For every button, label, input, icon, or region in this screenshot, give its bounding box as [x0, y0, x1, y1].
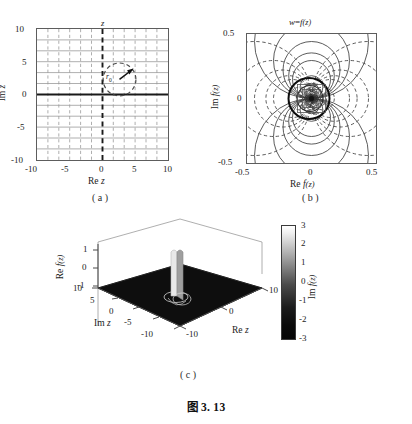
panel-a-ytick-4: -10: [11, 155, 23, 165]
colorbar-label-fn: f: [307, 284, 317, 287]
panel-a-xaxis-var: z: [101, 176, 105, 186]
figure-caption: 图 3. 13: [0, 398, 412, 414]
panel-b-xaxis-prefix: Re: [290, 179, 301, 189]
panel-b-yaxis-label: Im f(z): [210, 85, 220, 110]
panel-a-radius-annotation: r0: [106, 72, 112, 83]
panel-a-xtick-3: 5: [132, 164, 137, 174]
colorbar-tick-2: 1: [301, 257, 306, 267]
panel-a-ytick-2: 0: [22, 89, 27, 99]
panel-b-ytick-2: -0.5: [218, 157, 232, 167]
radius-subscript: 0: [109, 77, 112, 83]
colorbar-label-prefix: Im: [307, 289, 317, 300]
panel-c-imz-tick-3: -5: [124, 317, 132, 327]
colorbar-tick-4: -1: [299, 295, 307, 305]
panel-c-sublabel: ( c ): [180, 369, 196, 380]
panel-c-imz-tick-0: 10: [73, 283, 82, 293]
panel-a-ytick-3: -5: [17, 122, 25, 132]
panel-c-zaxis-arg: (z): [55, 255, 65, 264]
panel-b-ytick-1: 0: [237, 93, 242, 103]
panel-a-xaxis-prefix: Re: [88, 176, 99, 186]
panel-b-xaxis-arg: (z): [306, 179, 315, 189]
panel-c-rez-tick-0: -10: [186, 329, 198, 339]
panel-c-ztick-0: 1: [83, 244, 88, 254]
panel-c-plot-area: [58, 214, 298, 364]
panel-c-rez-tick-2: 10: [269, 285, 278, 295]
panel-c-rez-tick-1: 0: [229, 306, 234, 316]
panel-b-xtick-1: 0: [308, 167, 313, 177]
panel-b-yaxis-prefix: Im: [210, 99, 220, 110]
colorbar-tick-1: 2: [301, 238, 306, 248]
panel-b-title-arg: (z): [303, 18, 311, 27]
panel-c: 1 0 -1 Re f(z) 10 5 0 -5 -10 Im z -10 0 …: [0, 206, 412, 396]
panel-c-zaxis-prefix: Re: [55, 269, 65, 280]
colorbar-tick-6: -3: [299, 333, 307, 343]
panel-c-rez-axis-label: Re z: [232, 325, 249, 335]
colorbar-label-arg: (z): [307, 275, 317, 284]
panel-b-sublabel: ( b ): [302, 192, 319, 203]
panel-b-xaxis-label: Re f(z): [290, 179, 315, 189]
z-axis-ticks: [93, 250, 98, 286]
origin-blob: [309, 96, 314, 101]
panel-b-yaxis-arg: (z): [210, 85, 220, 94]
colorbar: [281, 225, 296, 340]
panel-b-xtick-2: 0.5: [366, 167, 377, 177]
panel-c-imz-axis-label: Im z: [94, 318, 111, 328]
panel-a-xtick-0: -10: [25, 164, 37, 174]
panel-a-yaxis-label: Im z: [0, 85, 7, 102]
panel-c-rez-var: z: [245, 325, 249, 335]
panel-c-zaxis-fn: f: [55, 264, 65, 267]
panel-c-zaxis-label: Re f(z): [55, 255, 65, 280]
panel-a-xaxis-label: Re z: [88, 176, 105, 186]
panel-a-ytick-0: 10: [15, 24, 24, 34]
panel-b-yaxis-fn: f: [210, 94, 220, 97]
panel-a-ytick-1: 5: [22, 57, 27, 67]
panel-a-xtick-2: 0: [99, 164, 104, 174]
panel-c-imz-var: z: [107, 318, 111, 328]
colorbar-label: Im f(z): [307, 275, 317, 300]
colorbar-tick-5: -2: [299, 314, 307, 324]
panel-c-imz-tick-2: 0: [109, 306, 114, 316]
panel-b-ytick-0: 0.5: [223, 28, 234, 38]
panel-c-imz-tick-1: 5: [90, 295, 95, 305]
panel-c-imz-tick-4: -10: [141, 329, 153, 339]
panel-a-yaxis-var: z: [0, 85, 7, 89]
panel-b: w=f(z): [206, 0, 412, 212]
panel-a-title: z: [101, 18, 104, 28]
panel-a-xtick-1: -5: [61, 164, 69, 174]
panel-a-yaxis-prefix: Im: [0, 91, 7, 102]
panel-a: z: [0, 0, 206, 212]
panel-a-sublabel: ( a ): [92, 192, 108, 203]
panel-c-imz-prefix: Im: [94, 318, 105, 328]
panel-b-xtick-0: -0.5: [235, 167, 249, 177]
panel-b-svg: [247, 34, 376, 163]
panel-c-svg: [58, 214, 298, 364]
panel-b-title: w=f(z): [289, 17, 311, 27]
panel-c-rez-prefix: Re: [232, 325, 243, 335]
colorbar-tick-0: 3: [301, 220, 306, 230]
panel-a-svg: [37, 29, 168, 160]
panel-b-plot-area: [246, 33, 377, 164]
panel-c-ztick-1: 0: [82, 262, 87, 272]
panel-a-plot-area: [36, 28, 169, 161]
panel-a-xtick-4: 10: [163, 164, 172, 174]
colorbar-tick-3: 0: [301, 276, 306, 286]
